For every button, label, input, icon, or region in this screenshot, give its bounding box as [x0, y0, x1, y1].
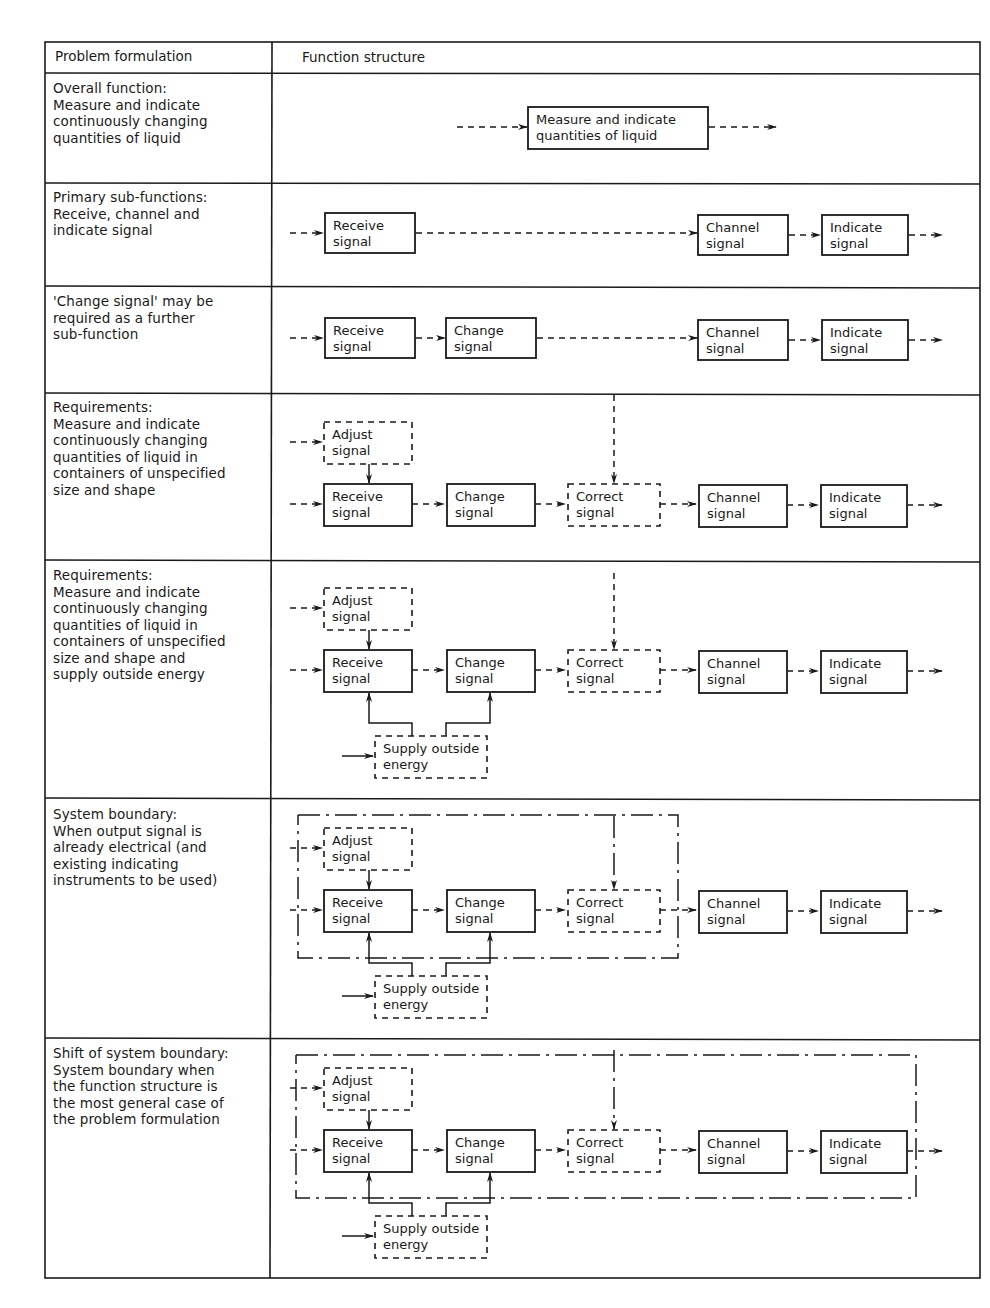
indicate-block-label: Indicate [829, 896, 881, 911]
indicate-block: Indicatesignal [821, 651, 907, 693]
row-divider [45, 798, 980, 800]
receive-block-label: signal [332, 505, 370, 520]
problem-text-line: containers of unspecified [53, 465, 226, 482]
channel-block-label: Channel [707, 1136, 760, 1151]
adjust-block-label: Adjust [332, 427, 373, 442]
channel-block-label: signal [706, 236, 744, 251]
adjust-block: Adjustsignal [324, 422, 412, 464]
change-block: Changesignal [447, 484, 535, 526]
problem-text-line: supply outside energy [53, 666, 226, 683]
problem-text-line: sub-function [53, 326, 213, 343]
overall-block: Measure and indicatequantities of liquid [528, 107, 708, 149]
supply-block: Supply outsideenergy [375, 736, 487, 778]
receive-block-label: signal [332, 911, 370, 926]
problem-text-line: quantities of liquid in [53, 449, 226, 466]
receive-block-label: signal [333, 234, 371, 249]
receive-block: Receivesignal [325, 318, 415, 358]
channel-block-label: Channel [706, 325, 759, 340]
receive-block-label: Receive [332, 1135, 383, 1150]
correct-block-label: Correct [576, 489, 623, 504]
correct-block-label: Correct [576, 895, 623, 910]
supply-block-label: energy [383, 757, 429, 772]
receive-block: Receivesignal [325, 213, 415, 253]
problem-text-line: required as a further [53, 310, 213, 327]
adjust-block-label: Adjust [332, 593, 373, 608]
correct-block: Correctsignal [568, 650, 660, 692]
supply-block: Supply outsideenergy [375, 1216, 487, 1258]
change-block-label: signal [454, 339, 492, 354]
indicate-block: Indicatesignal [821, 485, 907, 527]
column-divider [270, 42, 272, 1278]
change-block: Changesignal [447, 890, 535, 932]
indicate-block-label: signal [829, 672, 867, 687]
problem-text-line: existing indicating [53, 856, 217, 873]
channel-block: Channelsignal [699, 485, 787, 527]
channel-block-label: Channel [706, 220, 759, 235]
change-block-label: signal [455, 505, 493, 520]
channel-block-label: signal [707, 912, 745, 927]
problem-text-line: continuously changing [53, 113, 208, 130]
problem-text-line: quantities of liquid [53, 130, 208, 147]
channel-block-label: Channel [707, 490, 760, 505]
correct-block-label: signal [576, 911, 614, 926]
channel-block-label: signal [707, 1152, 745, 1167]
correct-block: Correctsignal [568, 890, 660, 932]
receive-block: Receivesignal [324, 484, 412, 526]
supply-block-label: Supply outside [383, 741, 479, 756]
supply-block-label: energy [383, 1237, 429, 1252]
receive-block-label: Receive [333, 323, 384, 338]
receive-block-label: Receive [332, 655, 383, 670]
change-block-label: signal [455, 671, 493, 686]
problem-text-line: System boundary when [53, 1062, 229, 1079]
change-block-label: signal [455, 1151, 493, 1166]
problem-text-line: already electrical (and [53, 839, 217, 856]
row-divider [45, 183, 980, 184]
change-block-label: Change [455, 895, 505, 910]
problem-text-line: When output signal is [53, 823, 217, 840]
problem-text-line: the problem formulation [53, 1111, 229, 1128]
problem-text-line: Measure and indicate [53, 97, 208, 114]
overall-block-label: quantities of liquid [536, 128, 657, 143]
indicate-block-label: signal [830, 236, 868, 251]
receive-block-label: Receive [332, 489, 383, 504]
problem-text-line: size and shape [53, 482, 226, 499]
correct-block-label: Correct [576, 655, 623, 670]
column-header-function: Function structure [302, 49, 425, 65]
problem-formulation-cell: System boundary:When output signal isalr… [53, 806, 217, 889]
adjust-block-label: signal [332, 1089, 370, 1104]
channel-block-label: signal [707, 506, 745, 521]
indicate-block-label: signal [830, 341, 868, 356]
receive-block: Receivesignal [324, 890, 412, 932]
indicate-block-label: signal [829, 912, 867, 927]
problem-text-line: Measure and indicate [53, 416, 226, 433]
problem-text-line: Receive, channel and [53, 206, 207, 223]
indicate-block-label: Indicate [830, 325, 882, 340]
problem-text-line: the most general case of [53, 1095, 229, 1112]
adjust-block-label: signal [332, 443, 370, 458]
supply-block-label: Supply outside [383, 981, 479, 996]
problem-formulation-cell: Requirements:Measure and indicatecontinu… [53, 399, 226, 498]
problem-heading: Shift of system boundary: [53, 1045, 229, 1062]
problem-text-line: size and shape and [53, 650, 226, 667]
channel-block-label: signal [707, 672, 745, 687]
row-divider [45, 73, 980, 74]
channel-block: Channelsignal [699, 891, 787, 933]
adjust-block-label: Adjust [332, 1073, 373, 1088]
energy-to-receive-arrow [369, 933, 412, 976]
change-block: Changesignal [447, 1130, 535, 1172]
indicate-block-label: Indicate [829, 1136, 881, 1151]
correct-block: Correctsignal [568, 484, 660, 526]
indicate-block: Indicatesignal [822, 320, 908, 360]
indicate-block-label: Indicate [829, 656, 881, 671]
change-block: Changesignal [447, 650, 535, 692]
channel-block: Channelsignal [699, 1131, 787, 1173]
change-block-label: Change [455, 489, 505, 504]
receive-block: Receivesignal [324, 1130, 412, 1172]
supply-block-label: Supply outside [383, 1221, 479, 1236]
energy-to-receive-arrow [369, 1173, 412, 1216]
problem-heading: Primary sub-functions: [53, 189, 207, 206]
receive-block-label: signal [332, 1151, 370, 1166]
change-block-label: Change [455, 1135, 505, 1150]
energy-to-change-arrow [446, 1173, 490, 1216]
receive-block-label: signal [333, 339, 371, 354]
